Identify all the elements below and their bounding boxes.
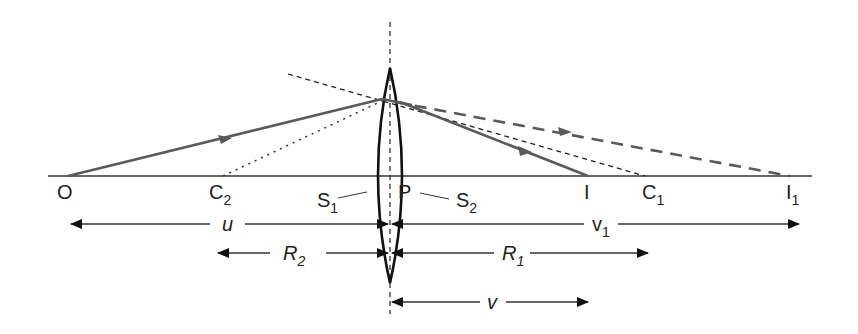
point-c1-label: C1 bbox=[642, 181, 664, 208]
v-label: v bbox=[487, 291, 498, 313]
point-p-label: P bbox=[398, 181, 411, 203]
point-c2-label: C2 bbox=[209, 181, 231, 208]
v1-label: v1 bbox=[592, 213, 610, 240]
refracted-ray bbox=[400, 102, 588, 176]
normal-line-c1 bbox=[288, 74, 645, 176]
point-i1-label: I1 bbox=[786, 181, 800, 208]
r2-label: R2 bbox=[283, 242, 305, 269]
surface-s1-label: S1 bbox=[317, 189, 338, 216]
first-surface-ray-extension bbox=[395, 102, 790, 176]
s2-leader-line bbox=[420, 193, 449, 199]
lens-refraction-diagram: O C2 P I C1 I1 S1 S2 u v1 R2 R1 v bbox=[0, 0, 858, 334]
point-o-label: O bbox=[57, 181, 73, 203]
normal-line-c2 bbox=[223, 100, 384, 176]
u-label: u bbox=[222, 213, 233, 235]
extension-arrow-icon bbox=[558, 127, 572, 136]
r1-label: R1 bbox=[502, 242, 524, 269]
s1-leader-line bbox=[338, 192, 367, 198]
surface-s2-label: S2 bbox=[456, 189, 477, 216]
point-i-label: I bbox=[584, 181, 590, 203]
